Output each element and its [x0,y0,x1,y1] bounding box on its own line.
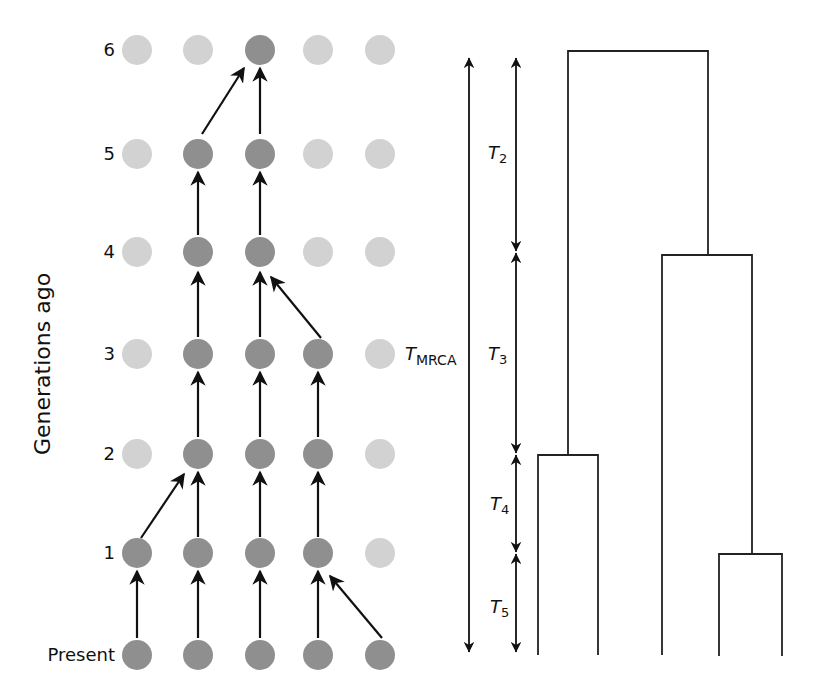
ancestral-individual-dot [303,339,333,369]
ancestral-individual-dot [183,139,213,169]
t4-subscript: 4 [501,502,509,517]
tree-node-gen1 [719,554,782,656]
individual-dot [365,439,395,469]
ancestral-individual-dot [303,439,333,469]
individual-dot [303,237,333,267]
t2-subscript: 2 [499,151,507,166]
individual-dot [365,139,395,169]
lineage-arrow [330,576,382,638]
ancestral-individual-dot [122,538,152,568]
ancestral-individual-dot [245,139,275,169]
t-mrca-label: TMRCA [405,344,456,370]
individual-dot [122,439,152,469]
ancestral-individual-dot [183,237,213,267]
ancestral-individual-dot [245,237,275,267]
tree-root-node [568,51,708,455]
ancestral-individual-dot [245,339,275,369]
t2-label: T2 [488,143,507,169]
t2-main: T [488,142,499,163]
lineage-arrow [271,277,321,338]
tree-node-gen4 [662,255,752,655]
t5-subscript: 5 [501,605,509,620]
row-label-1: 1 [35,543,115,563]
individual-dot [303,35,333,65]
row-label-present: Present [35,645,115,665]
t3-subscript: 3 [499,352,507,367]
row-label-6: 6 [35,40,115,60]
ancestral-individual-dot [183,538,213,568]
ancestral-individual-dot [245,538,275,568]
coalescent-tree [538,51,782,656]
ancestral-individual-dot [245,439,275,469]
ancestral-individual-dot [365,640,395,670]
y-axis-title: Generations ago [30,273,55,455]
individual-dot [122,139,152,169]
lineage-arrow [141,474,184,538]
t4-label: T4 [490,494,509,520]
row-label-5: 5 [35,144,115,164]
individual-dot [122,237,152,267]
ancestral-individual-dot [183,640,213,670]
individual-dot [365,35,395,65]
individual-dot [122,339,152,369]
ancestral-individual-dot [183,439,213,469]
ancestral-individual-dot [245,640,275,670]
row-label-4: 4 [35,242,115,262]
t3-main: T [488,343,499,364]
t5-main: T [490,596,501,617]
ancestral-individual-dot [303,640,333,670]
lineage-arrow [202,68,244,134]
individual-dot [303,139,333,169]
ancestral-individual-dot [122,640,152,670]
individual-dot [365,538,395,568]
t-mrca-subscript: MRCA [416,352,456,368]
individual-dot [122,35,152,65]
ancestral-individual-dot [183,339,213,369]
individual-dot [183,35,213,65]
t5-label: T5 [490,597,509,623]
ancestral-individual-dot [245,35,275,65]
tree-node-gen2 [538,455,598,655]
t4-main: T [490,493,501,514]
individual-dot [365,237,395,267]
t-mrca-main: T [405,343,416,364]
t3-label: T3 [488,344,507,370]
ancestral-individual-dot [303,538,333,568]
generation-dot-grid [122,35,395,670]
individual-dot [365,339,395,369]
